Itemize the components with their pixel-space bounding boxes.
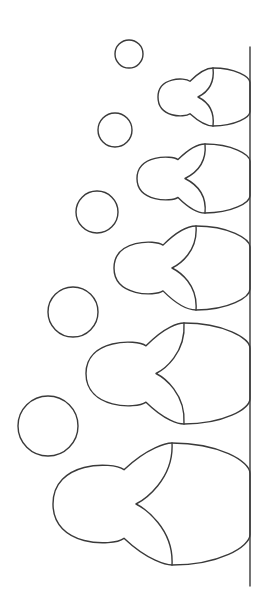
doll-face-line [136, 443, 172, 565]
doll-face-line [185, 144, 205, 213]
doll-outline [114, 226, 250, 310]
circle-1 [115, 40, 143, 68]
doll-3 [114, 226, 250, 310]
doll-1 [158, 68, 250, 126]
doll-face-line [172, 226, 196, 310]
circle-4 [48, 287, 98, 337]
doll-outline [137, 144, 250, 213]
doll-outline [158, 68, 250, 126]
circle-3 [76, 191, 118, 233]
doll-face-line [198, 68, 213, 126]
coloring-drawing [0, 0, 267, 616]
circle-2 [98, 113, 132, 147]
doll-2 [137, 144, 250, 213]
doll-outline [53, 443, 250, 565]
doll-4 [86, 323, 250, 424]
circle-5 [18, 396, 78, 456]
doll-5 [53, 443, 250, 565]
doll-outline [86, 323, 250, 424]
doll-face-line [156, 323, 184, 424]
